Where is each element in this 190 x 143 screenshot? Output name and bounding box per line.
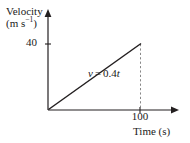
equation-label: v=0.4t [88, 68, 120, 80]
y-axis-arrowhead [45, 9, 52, 17]
y-axis-label: Velocity (m s−1) [6, 6, 43, 29]
equation-independent-variable: t [117, 67, 120, 79]
x-axis-label: Time (s) [133, 126, 170, 138]
equation-variable: v [88, 67, 93, 79]
y-axis-unit-suffix: ) [33, 17, 37, 29]
velocity-time-graph-figure: Velocity (m s−1) 40 100 Time (s) v=0.4t [0, 0, 190, 143]
y-axis-unit-prefix: (m s [6, 17, 25, 29]
y-axis-label-units: (m s−1) [6, 18, 43, 30]
equation-operator: = [95, 67, 101, 79]
equation-coefficient: 0.4 [103, 67, 117, 79]
y-tick-label-40: 40 [26, 37, 37, 49]
x-tick-label-100: 100 [127, 111, 153, 123]
x-axis-arrowhead [171, 107, 179, 114]
